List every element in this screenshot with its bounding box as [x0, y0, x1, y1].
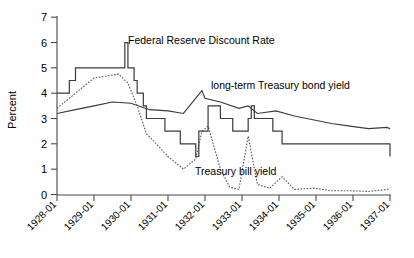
- annotation-discount-rate: Federal Reserve Discount Rate: [128, 34, 275, 46]
- x-tick-labels: 1928-01 1929-01 1930-01 1931-01 1932-01 …: [25, 198, 392, 232]
- x-tick-label: 1935-01: [284, 198, 318, 232]
- y-tick-label: 3: [41, 113, 47, 125]
- y-tick-label: 1: [41, 163, 47, 175]
- x-tick-label: 1931-01: [136, 198, 170, 232]
- y-tick-label: 6: [41, 37, 47, 49]
- y-tick-label: 0: [41, 189, 47, 201]
- x-tick-label: 1929-01: [62, 198, 96, 232]
- series-long-term-treasury-bond-yield: [57, 91, 390, 129]
- x-tick-label: 1928-01: [25, 198, 59, 232]
- y-tick-labels: 0 1 2 3 4 5 6 7: [41, 11, 47, 200]
- x-tick-label: 1934-01: [247, 198, 281, 232]
- series-federal-reserve-discount-rate: [57, 43, 390, 157]
- x-ticks: [57, 195, 390, 201]
- annotation-bill-yield: Treasury bill yield: [195, 165, 276, 177]
- annotation-bond-yield: long-term Treasury bond yield: [211, 79, 350, 91]
- x-tick-label: 1936-01: [321, 198, 355, 232]
- chart-figure: 0 1 2 3 4 5 6 7 Percent 1928-01 19: [0, 0, 414, 258]
- y-tick-label: 4: [41, 87, 47, 99]
- chart-svg: 0 1 2 3 4 5 6 7 Percent 1928-01 19: [0, 0, 414, 258]
- x-tick-label: 1932-01: [173, 198, 207, 232]
- x-tick-label: 1930-01: [99, 198, 133, 232]
- y-axis-title: Percent: [6, 91, 18, 129]
- y-tick-label: 7: [41, 11, 47, 23]
- y-tick-label: 5: [41, 62, 47, 74]
- y-tick-label: 2: [41, 138, 47, 150]
- x-tick-label: 1933-01: [210, 198, 244, 232]
- x-tick-label: 1937-01: [358, 198, 392, 232]
- y-ticks: [51, 17, 57, 194]
